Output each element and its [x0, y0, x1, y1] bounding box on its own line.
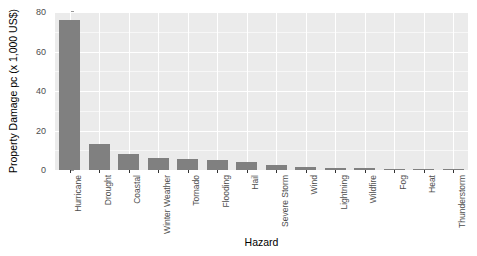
gridline-major	[55, 131, 468, 132]
x-tick-label: Flooding	[221, 175, 231, 208]
gridline-minor	[55, 111, 468, 112]
x-tick-mark	[306, 170, 307, 173]
x-tick-mark	[394, 170, 395, 173]
x-tick-mark	[365, 170, 366, 173]
bar-chart: Property Damage pc (x 1,000 US$) 0204060…	[0, 0, 477, 256]
x-tick-mark	[158, 170, 159, 173]
gridline-minor	[55, 71, 468, 72]
gridline-vertical	[217, 12, 218, 170]
x-tick-label: Winter Weather	[162, 175, 172, 234]
x-tick-mark	[335, 170, 336, 173]
x-tick-mark	[247, 170, 248, 173]
gridline-major	[55, 91, 468, 92]
x-tick-mark	[70, 170, 71, 173]
x-axis-title: Hazard	[55, 236, 468, 248]
y-axis-title: Property Damage pc (x 1,000 US$)	[4, 0, 22, 186]
gridline-vertical	[306, 12, 307, 170]
x-tick-label: Severe Storm	[280, 175, 290, 227]
bar	[207, 160, 228, 170]
y-axis-ticks: 020406080	[22, 0, 46, 256]
x-tick-label: Hurricane	[73, 175, 83, 212]
gridline-vertical	[335, 12, 336, 170]
plot-panel	[55, 12, 468, 170]
gridline-vertical	[394, 12, 395, 170]
x-tick-mark	[129, 170, 130, 173]
x-tick-mark	[188, 170, 189, 173]
x-tick-mark	[99, 170, 100, 173]
bar	[89, 144, 110, 170]
x-tick-label: Thunderstorm	[457, 175, 467, 228]
x-tick-label: Fog	[398, 175, 408, 190]
gridline-vertical	[158, 12, 159, 170]
y-tick-label: 80	[22, 7, 46, 17]
gridline-minor	[55, 32, 468, 33]
gridline-major	[55, 12, 468, 13]
gridline-major	[55, 52, 468, 53]
x-tick-mark	[453, 170, 454, 173]
gridline-vertical	[424, 12, 425, 170]
x-tick-label: Heat	[427, 175, 437, 193]
x-tick-mark	[276, 170, 277, 173]
gridline-minor	[55, 150, 468, 151]
gridline-vertical	[276, 12, 277, 170]
gridline-vertical	[453, 12, 454, 170]
bar	[236, 162, 257, 170]
bar	[118, 154, 139, 170]
y-tick-label: 0	[22, 165, 46, 175]
x-tick-label: Drought	[103, 175, 113, 205]
gridline-vertical	[129, 12, 130, 170]
y-tick-label: 60	[22, 47, 46, 57]
x-tick-label: Wildfire	[368, 175, 378, 203]
bar	[59, 20, 80, 170]
gridline-vertical	[188, 12, 189, 170]
x-tick-label: Coastal	[132, 175, 142, 204]
gridline-vertical	[247, 12, 248, 170]
x-tick-mark	[217, 170, 218, 173]
x-tick-label: Wind	[309, 175, 319, 194]
y-tick-label: 40	[22, 86, 46, 96]
bar	[148, 158, 169, 170]
x-tick-mark	[424, 170, 425, 173]
bar	[177, 159, 198, 170]
y-tick-label: 20	[22, 126, 46, 136]
x-tick-label: Tornado	[191, 175, 201, 206]
gridline-vertical	[365, 12, 366, 170]
x-tick-label: Lightning	[339, 175, 349, 210]
x-tick-label: Hail	[250, 175, 260, 190]
